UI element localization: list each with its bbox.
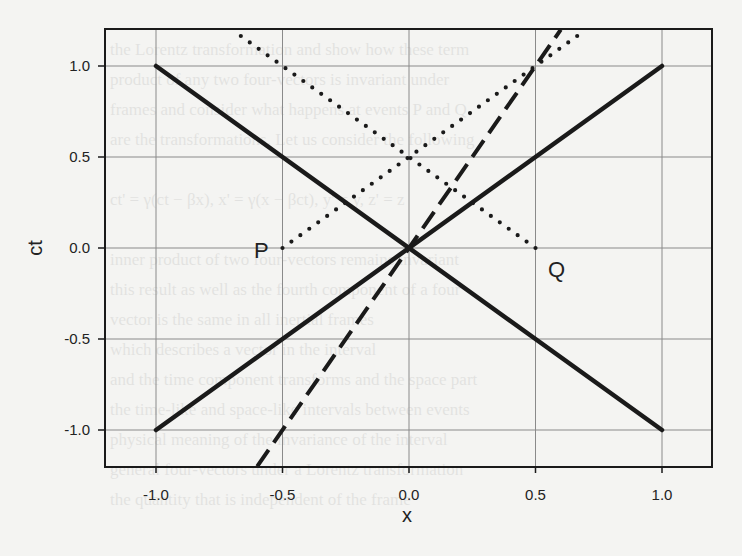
light-signal-from-Q-line <box>232 30 536 248</box>
y-tick-label: 1.0 <box>69 57 90 74</box>
y-tick-label: -1.0 <box>64 421 90 438</box>
x-tick-label: 0.5 <box>525 486 546 503</box>
x-tick-label: -0.5 <box>270 486 296 503</box>
y-tick-label: 0.5 <box>69 148 90 165</box>
point-q-label: Q <box>548 257 565 282</box>
x-tick-label: -1.0 <box>143 486 169 503</box>
y-tick-label: -0.5 <box>64 330 90 347</box>
light-signal-from-P-line <box>283 30 587 248</box>
y-axis-label: ct <box>24 240 46 256</box>
x-tick-label: 1.0 <box>652 486 673 503</box>
x-tick-label: 0.0 <box>399 486 420 503</box>
point-p-label: P <box>254 238 269 263</box>
x-axis-label: x <box>402 504 412 526</box>
y-tick-label: 0.0 <box>69 239 90 256</box>
spacetime-diagram: -1.0-0.50.00.51.01.00.50.0-0.5-1.0 P Q x… <box>0 0 742 556</box>
